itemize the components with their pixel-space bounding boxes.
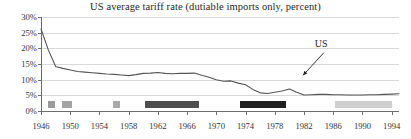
chart-title: US average tariff rate (dutiable imports… <box>0 1 411 12</box>
x-axis-label: 1994 <box>372 121 411 131</box>
y-axis-label: 25% <box>4 29 37 37</box>
x-tick-mark <box>129 111 130 115</box>
gridline <box>41 111 399 112</box>
x-tick-mark <box>362 111 363 115</box>
x-tick-mark <box>333 111 334 115</box>
y-axis-label: 10% <box>4 76 37 84</box>
y-axis-label: 20% <box>4 44 37 52</box>
y-axis-label: 30% <box>4 13 37 21</box>
x-tick-mark <box>275 111 276 115</box>
arrow-shaft <box>303 53 324 76</box>
x-tick-mark <box>246 111 247 115</box>
y-axis-label: 5% <box>4 91 37 99</box>
x-tick-mark <box>41 111 42 115</box>
us-annotation-arrow <box>41 17 399 111</box>
x-tick-mark <box>187 111 188 115</box>
x-tick-mark <box>158 111 159 115</box>
x-tick-mark <box>392 111 393 115</box>
x-tick-mark <box>216 111 217 115</box>
plot-area: 0%5%10%15%20%25%30% 19461950195419581962… <box>41 17 399 111</box>
y-axis-label: 0% <box>4 107 37 115</box>
y-axis-label: 15% <box>4 60 37 68</box>
x-tick-mark <box>70 111 71 115</box>
x-tick-mark <box>99 111 100 115</box>
x-tick-mark <box>304 111 305 115</box>
chart-container: US average tariff rate (dutiable imports… <box>0 0 411 139</box>
